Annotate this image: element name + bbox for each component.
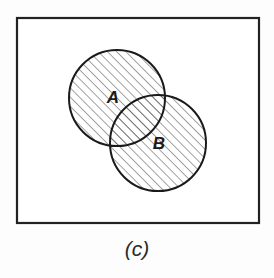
figure-caption: (c) [125,237,150,260]
venn-diagram-figure: A B (c) [0,0,274,278]
figure-container: A B (c) [0,0,274,278]
set-a-label: A [106,88,119,107]
set-b-label: B [153,134,165,153]
